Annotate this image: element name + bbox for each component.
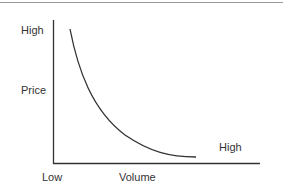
y-high-label: High xyxy=(21,24,44,36)
y-axis-label: Price xyxy=(21,84,46,96)
x-axis-label: Volume xyxy=(119,171,156,183)
x-high-label: High xyxy=(219,141,242,153)
x-low-label: Low xyxy=(42,171,62,183)
demand-curve xyxy=(70,29,196,157)
